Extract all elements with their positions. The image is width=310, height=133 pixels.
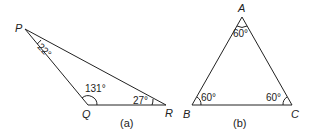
caption-a: (a) <box>120 117 133 129</box>
angle-label-a: 60° <box>233 28 248 39</box>
vertex-label-q: Q <box>82 108 91 120</box>
vertex-label-b: B <box>183 108 190 120</box>
vertex-label-r: R <box>165 107 173 119</box>
angle-arc-c <box>283 97 287 105</box>
angle-label-b: 60° <box>201 92 216 103</box>
diagram-canvas: P Q R 22° 131° 27° (a) A B C 60° 60° 60°… <box>0 0 310 133</box>
vertex-label-a: A <box>237 2 245 14</box>
angle-label-c: 60° <box>266 92 281 103</box>
vertex-label-p: P <box>15 22 23 34</box>
angle-label-q: 131° <box>85 83 106 94</box>
angle-label-r: 27° <box>133 95 148 106</box>
angle-arc-r <box>152 99 153 105</box>
triangle-abc: A B C 60° 60° 60° (b) <box>183 2 299 129</box>
vertex-label-c: C <box>291 108 299 120</box>
caption-b: (b) <box>233 117 246 129</box>
triangle-pqr: P Q R 22° 131° 27° (a) <box>15 22 173 129</box>
